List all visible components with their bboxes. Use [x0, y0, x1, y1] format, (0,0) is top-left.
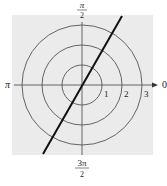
polar-axis-arrow-icon [152, 83, 158, 88]
radial-label-1: 1 [104, 89, 109, 99]
label-pi: π [5, 79, 11, 90]
svg-text:3π: 3π [77, 158, 87, 168]
radial-label-2: 2 [124, 89, 129, 99]
radial-label-3: 3 [144, 89, 149, 99]
label-zero: 0 [162, 79, 167, 90]
polar-graph: π 2 π 3π 2 0 1 2 3 [0, 0, 167, 186]
label-3pi-over-2: 3π 2 [75, 158, 89, 179]
svg-text:2: 2 [80, 11, 84, 20]
svg-text:2: 2 [80, 170, 84, 179]
svg-text:π: π [80, 0, 85, 10]
